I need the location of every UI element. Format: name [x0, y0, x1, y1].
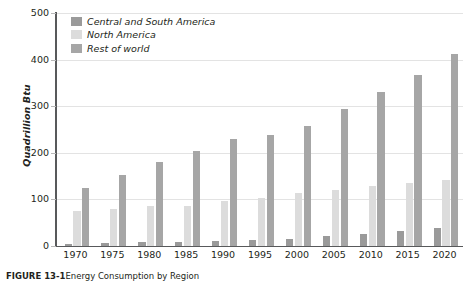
bar[interactable] [147, 206, 154, 246]
bar[interactable] [304, 126, 311, 246]
bar[interactable] [119, 175, 126, 246]
bar[interactable] [341, 109, 348, 246]
legend-label: North America [87, 29, 156, 40]
y-tick-mark [51, 13, 56, 14]
bar[interactable] [360, 234, 367, 246]
bar[interactable] [73, 211, 80, 246]
y-tick-label: 200 [9, 148, 49, 158]
x-tick-label: 2010 [352, 249, 389, 260]
chart-legend: Central and South AmericaNorth AmericaRe… [71, 15, 301, 56]
bar[interactable] [286, 239, 293, 246]
legend-label: Central and South America [87, 16, 215, 27]
bar[interactable] [65, 244, 72, 246]
y-tick-label: 0 [9, 241, 49, 251]
bar[interactable] [221, 201, 228, 246]
bar[interactable] [295, 193, 302, 246]
bar[interactable] [332, 190, 339, 246]
y-tick-label: 400 [9, 55, 49, 65]
figure-container: Quadrillion Btu 0100200300400500 Central… [0, 0, 469, 282]
figure-caption: FIGURE 13-1Energy Consumption by Region [6, 271, 466, 281]
figure-caption-label: FIGURE 13-1 [6, 271, 65, 281]
bar[interactable] [249, 240, 256, 246]
y-axis-tick-labels: 0100200300400500 [9, 13, 49, 246]
bar[interactable] [175, 242, 182, 246]
bar[interactable] [101, 243, 108, 246]
bar[interactable] [434, 228, 441, 246]
bar[interactable] [193, 151, 200, 246]
bar[interactable] [230, 139, 237, 246]
legend-item[interactable]: North America [71, 29, 301, 41]
bar-group [426, 13, 463, 246]
y-tick-mark [51, 106, 56, 107]
legend-label: Rest of world [87, 43, 149, 54]
x-axis-line [55, 246, 463, 247]
legend-item[interactable]: Rest of world [71, 42, 301, 54]
legend-swatch-icon [71, 44, 82, 53]
bar[interactable] [156, 162, 163, 246]
y-tick-mark [51, 60, 56, 61]
legend-swatch-icon [71, 30, 82, 39]
legend-item[interactable]: Central and South America [71, 15, 301, 27]
figure-caption-text: Energy Consumption by Region [65, 271, 199, 281]
x-tick-label: 2015 [389, 249, 426, 260]
bar[interactable] [212, 241, 219, 246]
x-tick-label: 2020 [426, 249, 463, 260]
y-tick-label: 300 [9, 101, 49, 111]
bar[interactable] [397, 231, 404, 246]
x-tick-label: 1990 [205, 249, 242, 260]
x-axis-tick-labels: 1970197519801985199019952000200520102015… [57, 249, 463, 263]
x-tick-label: 2005 [315, 249, 352, 260]
bar[interactable] [377, 92, 384, 246]
x-tick-label: 1970 [57, 249, 94, 260]
y-tick-label: 500 [9, 8, 49, 18]
y-tick-mark [51, 153, 56, 154]
bar-group [352, 13, 389, 246]
bar[interactable] [442, 180, 449, 246]
bar[interactable] [406, 183, 413, 246]
bar[interactable] [110, 209, 117, 246]
bar[interactable] [82, 188, 89, 246]
x-tick-label: 1975 [94, 249, 131, 260]
y-tick-label: 100 [9, 194, 49, 204]
bar[interactable] [258, 198, 265, 246]
bar-group [315, 13, 352, 246]
y-tick-mark [51, 246, 56, 247]
bar[interactable] [323, 236, 330, 246]
bar[interactable] [369, 186, 376, 246]
legend-swatch-icon [71, 17, 82, 26]
bar[interactable] [184, 206, 191, 246]
x-tick-label: 1980 [131, 249, 168, 260]
x-tick-label: 1995 [242, 249, 279, 260]
bar[interactable] [138, 242, 145, 246]
bar[interactable] [267, 135, 274, 246]
bar[interactable] [451, 54, 458, 246]
x-tick-label: 1985 [168, 249, 205, 260]
x-tick-label: 2000 [278, 249, 315, 260]
bar[interactable] [414, 75, 421, 246]
y-tick-mark [51, 199, 56, 200]
bar-group [389, 13, 426, 246]
